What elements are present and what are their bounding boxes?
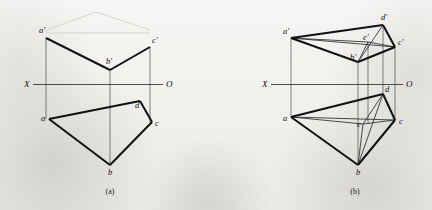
- projection-drawing-svg: XOa'b'c'abcd(a)XOa'b'c'd'e'abcde(b): [0, 0, 432, 210]
- edge-aprime-bprime: [291, 38, 358, 62]
- vertex-label-e: e: [357, 119, 361, 129]
- panel-a: XOa'b'c'abcd(a): [23, 12, 173, 196]
- vertex-label-d-prime: d': [381, 12, 387, 22]
- vertex-label-b-prime: b': [106, 56, 112, 66]
- panel-caption-a: (a): [106, 187, 115, 196]
- vertex-label-c-prime: c': [398, 37, 404, 47]
- vertex-label-b-prime: b': [350, 52, 356, 62]
- figure-root: XOa'b'c'abcd(a)XOa'b'c'd'e'abcde(b): [0, 0, 432, 210]
- vertex-label-a: a: [283, 113, 287, 123]
- edge-d-a: [49, 101, 140, 119]
- edge-bprime-cprime: [110, 47, 150, 70]
- vertex-label-a: a: [41, 113, 45, 123]
- edge-c-d: [383, 94, 395, 120]
- origin-label: O: [406, 79, 413, 89]
- ghost-upper-left: [44, 12, 96, 31]
- edge-b-c: [358, 120, 395, 165]
- panel-b: XOa'b'c'd'e'abcde(b): [261, 12, 413, 196]
- vertex-label-b: b: [356, 167, 360, 177]
- vertex-label-e-prime: e': [363, 32, 369, 42]
- edge-b-d: [358, 94, 383, 165]
- x-axis-label: X: [23, 79, 30, 89]
- edge-a-b: [291, 117, 358, 165]
- edge-a-b: [49, 119, 110, 165]
- vertex-label-b: b: [108, 167, 112, 177]
- vertex-label-a-prime: a': [39, 25, 45, 35]
- vertex-label-c: c: [399, 116, 403, 126]
- edge-aprime-bprime: [46, 38, 110, 70]
- edge-aprime-dprime: [291, 25, 383, 38]
- vertex-label-c-prime: c': [152, 35, 158, 45]
- x-axis-label: X: [261, 79, 268, 89]
- vertex-label-a-prime: a': [283, 26, 289, 36]
- edge-a-d: [291, 94, 383, 117]
- origin-label: O: [166, 79, 173, 89]
- edge-cprime-dprime: [383, 25, 395, 47]
- panel-caption-b: (b): [350, 187, 360, 196]
- edge-aprime-cprime: [291, 38, 395, 47]
- edge-b-c: [110, 122, 152, 165]
- vertex-label-d: d: [385, 84, 390, 94]
- ghost-upper-right: [96, 12, 150, 30]
- vertex-label-c: c: [155, 118, 159, 128]
